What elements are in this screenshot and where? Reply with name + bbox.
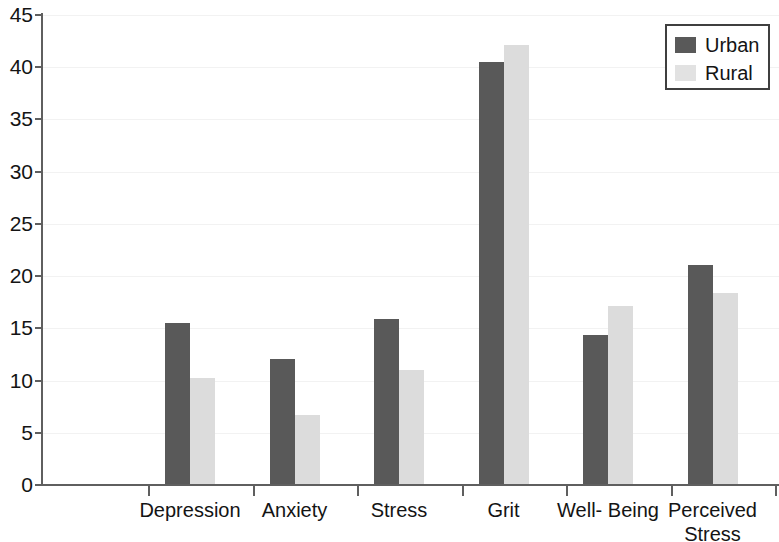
x-axis-tick bbox=[253, 486, 255, 496]
x-axis-category-label: Well- Being bbox=[548, 498, 668, 522]
bar-chart: 454035302520151050 DepressionAnxietyStre… bbox=[0, 0, 779, 542]
bar-rural bbox=[713, 293, 738, 485]
y-axis-tick bbox=[35, 14, 42, 16]
bar-urban bbox=[165, 323, 190, 485]
legend: Urban Rural bbox=[665, 24, 770, 90]
y-axis-tick-label: 45 bbox=[0, 4, 33, 25]
y-axis-tick-label: 25 bbox=[0, 213, 33, 234]
x-axis-tick bbox=[462, 486, 464, 496]
legend-item-rural: Rural bbox=[675, 60, 768, 86]
bar-rural bbox=[295, 415, 320, 485]
y-axis-tick-label: 10 bbox=[0, 370, 33, 391]
y-axis-tick bbox=[35, 275, 42, 277]
x-axis-tick bbox=[775, 486, 777, 496]
x-axis-tick bbox=[148, 486, 150, 496]
bar-urban bbox=[270, 359, 295, 485]
x-axis-tick bbox=[357, 486, 359, 496]
y-axis-tick-label: 20 bbox=[0, 265, 33, 286]
gridline bbox=[41, 119, 779, 120]
bar-rural bbox=[504, 45, 529, 485]
legend-swatch-rural-icon bbox=[675, 65, 696, 81]
x-axis-tick bbox=[671, 486, 673, 496]
gridline bbox=[41, 172, 779, 173]
gridline bbox=[41, 328, 779, 329]
y-axis-tick bbox=[35, 432, 42, 434]
bar-urban bbox=[688, 265, 713, 485]
bar-urban bbox=[479, 62, 504, 485]
y-axis-tick-labels: 454035302520151050 bbox=[0, 0, 33, 542]
y-axis-tick-label: 5 bbox=[0, 422, 33, 443]
gridline bbox=[41, 15, 779, 16]
bar-urban bbox=[374, 319, 399, 485]
y-axis-tick bbox=[35, 484, 42, 486]
y-axis-tick bbox=[35, 223, 42, 225]
y-axis-tick bbox=[35, 327, 42, 329]
y-axis-tick bbox=[35, 66, 42, 68]
bar-rural bbox=[190, 378, 215, 485]
legend-item-urban: Urban bbox=[675, 32, 768, 58]
gridline bbox=[41, 276, 779, 277]
y-axis-tick-label: 35 bbox=[0, 108, 33, 129]
x-axis-category-label: Anxiety bbox=[235, 498, 355, 522]
x-axis-category-label: Perceived Stress bbox=[653, 498, 773, 542]
y-axis-tick bbox=[35, 380, 42, 382]
x-axis-category-label: Grit bbox=[444, 498, 564, 522]
y-axis-tick bbox=[35, 171, 42, 173]
y-axis-tick bbox=[35, 118, 42, 120]
legend-swatch-urban-icon bbox=[675, 37, 696, 53]
gridline bbox=[41, 224, 779, 225]
y-axis-tick-label: 30 bbox=[0, 161, 33, 182]
bar-urban bbox=[583, 335, 608, 485]
y-axis-tick-label: 15 bbox=[0, 317, 33, 338]
legend-label-urban: Urban bbox=[705, 35, 759, 55]
x-axis-category-label: Depression bbox=[130, 498, 250, 522]
x-axis-line bbox=[41, 484, 779, 486]
bar-rural bbox=[399, 370, 424, 485]
y-axis-tick-label: 40 bbox=[0, 56, 33, 77]
legend-label-rural: Rural bbox=[705, 63, 753, 83]
x-axis-category-label: Stress bbox=[339, 498, 459, 522]
x-axis-tick bbox=[566, 486, 568, 496]
bar-rural bbox=[608, 306, 633, 485]
y-axis-tick-label: 0 bbox=[0, 474, 33, 495]
y-axis-line bbox=[41, 13, 43, 486]
